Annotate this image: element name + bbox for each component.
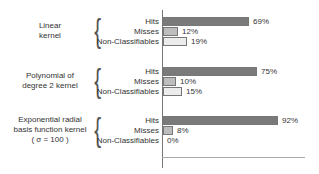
value-label: 75% (261, 67, 277, 76)
category-label: Misses (89, 27, 159, 36)
category-label: Non-Classifiables (89, 37, 159, 46)
group-label-line: degree 2 kernel (5, 81, 95, 91)
group-label: Polynomial ofdegree 2 kernel (5, 71, 95, 91)
bar-hits (163, 17, 249, 26)
x-axis (162, 157, 305, 158)
group-label-line: Linear (5, 21, 95, 31)
category-label: Misses (89, 77, 159, 86)
value-label: 0% (167, 136, 179, 145)
value-label: 92% (282, 116, 298, 125)
group-label-line: basis function kernel (5, 125, 95, 135)
bar-misses (163, 77, 176, 86)
bar-hits (163, 67, 257, 76)
category-label: Hits (89, 116, 159, 125)
bar-non-classifiables (163, 37, 187, 46)
category-label: Misses (89, 126, 159, 135)
bar-hits (163, 116, 278, 125)
group-label-line: Exponential radial (5, 115, 95, 125)
category-label: Hits (89, 67, 159, 76)
group-label: Linearkernel (5, 21, 95, 41)
category-label: Hits (89, 17, 159, 26)
category-label: Non-Classifiables (89, 136, 159, 145)
value-label: 10% (180, 77, 196, 86)
value-label: 69% (253, 17, 269, 26)
value-label: 15% (186, 87, 202, 96)
group-label-line: ( σ = 100 ) (5, 135, 95, 145)
bar-misses (163, 27, 178, 36)
value-label: 8% (177, 126, 189, 135)
bar-non-classifiables (163, 87, 182, 96)
bar-misses (163, 126, 173, 135)
group-label-line: kernel (5, 31, 95, 41)
group-label: Exponential radialbasis function kernel(… (5, 115, 95, 145)
category-label: Non-Classifiables (89, 87, 159, 96)
value-label: 19% (191, 37, 207, 46)
value-label: 12% (182, 27, 198, 36)
group-label-line: Polynomial of (5, 71, 95, 81)
